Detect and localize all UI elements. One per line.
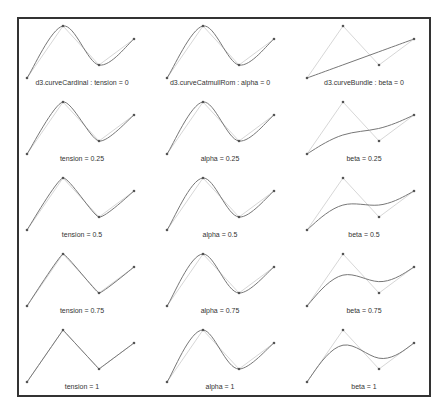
panel-label: tension = 0.5 xyxy=(62,231,102,238)
control-point xyxy=(273,190,276,193)
control-polygon xyxy=(307,254,414,306)
curve-path xyxy=(27,102,134,154)
control-point xyxy=(378,216,381,219)
control-point xyxy=(98,292,101,295)
control-polygon xyxy=(167,102,274,154)
control-point xyxy=(306,229,309,232)
curve-grid: d3.curveCardinal : tension = 0tension = … xyxy=(0,0,444,413)
control-point xyxy=(133,266,136,269)
control-point xyxy=(62,253,65,256)
control-point xyxy=(133,190,136,193)
curve-path xyxy=(167,254,274,306)
control-point xyxy=(133,38,136,41)
control-point xyxy=(273,342,276,345)
panel-bundle-0: d3.curveBundle : beta = 0 xyxy=(306,25,416,86)
control-point xyxy=(202,253,205,256)
control-point xyxy=(413,38,416,41)
control-point xyxy=(413,114,416,117)
control-point xyxy=(202,25,205,28)
control-polygon xyxy=(167,178,274,230)
control-point xyxy=(238,64,241,67)
control-point xyxy=(342,25,345,28)
panel-bundle-1: beta = 0.25 xyxy=(306,101,416,162)
panel-label: beta = 0.75 xyxy=(346,307,381,314)
panel-bundle-3: beta = 0.75 xyxy=(306,253,416,314)
panel-label: d3.curveBundle : beta = 0 xyxy=(324,79,404,86)
control-polygon xyxy=(167,330,274,382)
control-point xyxy=(166,305,169,308)
control-point xyxy=(273,38,276,41)
control-point xyxy=(238,368,241,371)
control-polygon xyxy=(27,330,134,382)
control-point xyxy=(342,329,345,332)
control-point xyxy=(26,77,29,80)
control-point xyxy=(62,329,65,332)
control-point xyxy=(98,64,101,67)
control-point xyxy=(238,292,241,295)
panel-bundle-2: beta = 0.5 xyxy=(306,177,416,238)
curve-path xyxy=(167,178,274,230)
panel-catmullRom-3: alpha = 0.75 xyxy=(166,253,276,315)
panel-catmullRom-2: alpha = 0.5 xyxy=(166,177,276,239)
control-point xyxy=(306,305,309,308)
control-point xyxy=(306,77,309,80)
panel-catmullRom-0: d3.curveCatmullRom : alpha = 0 xyxy=(166,25,276,87)
control-point xyxy=(62,177,65,180)
control-point xyxy=(238,216,241,219)
control-point xyxy=(166,229,169,232)
panel-catmullRom-4: alpha = 1 xyxy=(166,329,276,391)
control-point xyxy=(166,381,169,384)
control-point xyxy=(202,177,205,180)
control-point xyxy=(413,266,416,269)
control-polygon xyxy=(307,102,414,154)
control-point xyxy=(98,216,101,219)
panel-label: alpha = 0.75 xyxy=(201,307,240,315)
panel-cardinal-1: tension = 0.25 xyxy=(26,101,136,162)
control-point xyxy=(273,266,276,269)
control-point xyxy=(306,381,309,384)
control-polygon xyxy=(27,26,134,78)
control-point xyxy=(306,153,309,156)
curve-path xyxy=(27,26,134,78)
panel-label: tension = 0.75 xyxy=(60,307,104,314)
panel-label: beta = 1 xyxy=(351,383,377,390)
control-point xyxy=(378,368,381,371)
panel-cardinal-0: d3.curveCardinal : tension = 0 xyxy=(26,25,136,86)
control-point xyxy=(378,292,381,295)
curve-path xyxy=(167,102,274,154)
control-point xyxy=(202,329,205,332)
control-point xyxy=(413,342,416,345)
panel-label: beta = 0.5 xyxy=(348,231,379,238)
curve-path xyxy=(167,26,274,78)
curve-path xyxy=(167,330,274,382)
control-point xyxy=(413,190,416,193)
control-point xyxy=(98,368,101,371)
control-point xyxy=(26,153,29,156)
curve-path xyxy=(27,330,134,382)
control-point xyxy=(342,253,345,256)
curve-path xyxy=(27,254,134,306)
control-point xyxy=(133,342,136,345)
control-polygon xyxy=(27,102,134,154)
control-point xyxy=(26,229,29,232)
panel-label: d3.curveCardinal : tension = 0 xyxy=(35,79,128,86)
control-point xyxy=(26,305,29,308)
control-point xyxy=(342,177,345,180)
control-point xyxy=(342,101,345,104)
panel-cardinal-2: tension = 0.5 xyxy=(26,177,136,238)
panel-catmullRom-1: alpha = 0.25 xyxy=(166,101,276,163)
panel-cardinal-3: tension = 0.75 xyxy=(26,253,136,314)
control-polygon xyxy=(167,26,274,78)
control-point xyxy=(378,64,381,67)
panel-label: tension = 1 xyxy=(65,383,100,390)
panel-label: alpha = 0.5 xyxy=(203,231,238,239)
panel-label: d3.curveCatmullRom : alpha = 0 xyxy=(170,79,270,87)
control-polygon xyxy=(307,26,414,78)
panel-bundle-4: beta = 1 xyxy=(306,329,416,390)
control-point xyxy=(166,153,169,156)
control-point xyxy=(62,101,65,104)
control-point xyxy=(378,140,381,143)
control-polygon xyxy=(307,330,414,382)
panel-label: alpha = 0.25 xyxy=(201,155,240,163)
control-point xyxy=(133,114,136,117)
